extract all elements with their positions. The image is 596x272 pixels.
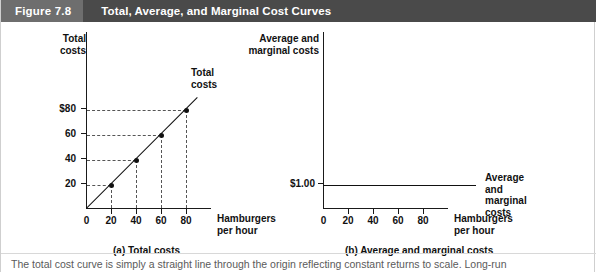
panel-a-x-ticklabel-80: 80 <box>175 215 197 226</box>
figure-title: Total, Average, and Marginal Cost Curves <box>83 5 331 17</box>
panel-a-x-tick-80 <box>186 209 187 214</box>
panel-a-datapoint-60 <box>159 133 164 138</box>
panel-a-datapoint-80 <box>184 108 189 113</box>
panel-a-y-tick-20 <box>81 183 86 184</box>
panel-a-x-tick-20 <box>111 209 112 214</box>
figure-number-badge: Figure 7.8 <box>1 0 83 22</box>
panel-a-guide-h-40 <box>87 160 136 161</box>
panel-b-y-axis-label: Average and marginal costs <box>241 33 319 56</box>
panel-b-x-ticklabel-0: 0 <box>318 215 329 226</box>
panel-a-curve-label: Total costs <box>191 67 217 90</box>
panel-a-datapoint-40 <box>134 158 139 163</box>
panel-a-y-ticklabel-80: $80 <box>48 103 76 114</box>
panel-a-y-axis <box>86 32 87 209</box>
panel-b-x-axis <box>323 208 448 209</box>
panel-a-guide-v-40 <box>136 160 137 208</box>
panel-a-y-axis-label: Total costs <box>42 33 86 56</box>
panel-b-curve-label: Average and marginal costs <box>485 172 527 218</box>
panel-a-y-tick-80 <box>81 108 86 109</box>
figure-caption: The total cost curve is simply a straigh… <box>11 258 589 271</box>
panel-b-x-ticklabel-20: 20 <box>337 215 359 226</box>
panel-a-x-ticklabel-60: 60 <box>150 215 172 226</box>
panel-a-x-ticklabel-0: 0 <box>81 215 92 226</box>
panel-a-x-ticklabel-40: 40 <box>125 215 147 226</box>
panel-a-guide-h-60 <box>87 135 161 136</box>
panel-a-guide-v-60 <box>161 135 162 208</box>
panel-a-guide-v-80 <box>186 110 187 208</box>
panel-b-y-ticklabel-1: $1.00 <box>279 178 315 189</box>
panel-b-caption: (b) Average and marginal costs <box>345 245 493 256</box>
panel-b-x-ticklabel-80: 80 <box>412 215 434 226</box>
panel-b-y-axis <box>323 32 324 209</box>
caption-divider <box>1 253 596 254</box>
panel-a-y-ticklabel-40: 40 <box>48 153 76 164</box>
panel-b-x-tick-40 <box>373 209 374 214</box>
panel-a-x-tick-60 <box>161 209 162 214</box>
panel-a-y-tick-60 <box>81 133 86 134</box>
panel-a-x-tick-40 <box>136 209 137 214</box>
panel-a-y-tick-40 <box>81 158 86 159</box>
panel-a-guide-h-80 <box>87 110 186 111</box>
panel-a-y-ticklabel-60: 60 <box>48 128 76 139</box>
panel-a-y-ticklabel-20: 20 <box>48 178 76 189</box>
panel-b-average-marginal-cost-curve <box>323 185 476 186</box>
panel-a-x-ticklabel-20: 20 <box>100 215 122 226</box>
panel-a-datapoint-20 <box>109 183 114 188</box>
figure-header: Figure 7.8 Total, Average, and Marginal … <box>1 0 596 22</box>
panel-b-x-tick-60 <box>398 209 399 214</box>
panel-b-x-ticklabel-60: 60 <box>387 215 409 226</box>
panel-b-x-ticklabel-40: 40 <box>362 215 384 226</box>
panel-a-caption: (a) Total costs <box>113 245 180 256</box>
panel-a-x-axis <box>86 208 211 209</box>
panel-a-total-cost-curve <box>86 97 198 209</box>
panel-a-guide-v-20 <box>111 185 112 208</box>
panel-a-x-axis-label: Hamburgers per hour <box>217 213 276 236</box>
panel-b-x-tick-20 <box>348 209 349 214</box>
panel-b-x-tick-80 <box>423 209 424 214</box>
